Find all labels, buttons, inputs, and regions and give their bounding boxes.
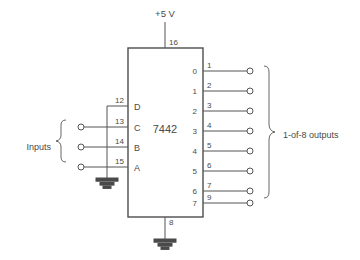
output-terminal-4[interactable] xyxy=(247,128,253,134)
output-index-7: 7 xyxy=(193,199,198,208)
input-ground-bar-1 xyxy=(96,178,118,181)
input-pin-number-13: 13 xyxy=(115,117,124,126)
input-port-letter-A: A xyxy=(134,163,140,173)
input-port-letter-B: B xyxy=(134,143,140,153)
input-pin-number-12: 12 xyxy=(115,96,124,105)
output-pin-number-4: 4 xyxy=(207,121,212,130)
input-terminal-13[interactable] xyxy=(78,124,84,130)
output-index-0: 0 xyxy=(193,67,198,76)
output-terminal-1[interactable] xyxy=(247,68,253,74)
input-section: 12 D 13 C 14 B 15 A xyxy=(26,96,141,188)
output-pin-number-1: 1 xyxy=(207,61,212,70)
output-section: 0 1 1 2 2 3 3 4 xyxy=(193,61,339,208)
input-terminal-15[interactable] xyxy=(78,164,84,170)
power-pin-number: 16 xyxy=(169,38,178,47)
input-pin-number-14: 14 xyxy=(115,137,124,146)
output-pin-number-6: 6 xyxy=(207,161,212,170)
output-line-0-group: 0 1 xyxy=(193,61,253,76)
output-terminal-6[interactable] xyxy=(247,168,253,174)
diagram-canvas: +5 V 16 7442 12 D 13 C xyxy=(0,0,360,260)
input-pin-12-group: 12 D xyxy=(107,96,141,112)
output-pin-number-3: 3 xyxy=(207,101,212,110)
output-terminal-5[interactable] xyxy=(247,148,253,154)
output-line-5-group: 5 6 xyxy=(193,161,253,176)
output-index-2: 2 xyxy=(193,107,198,116)
output-terminal-7[interactable] xyxy=(247,188,253,194)
input-pin-13-group: 13 C xyxy=(78,117,141,133)
power-supply-group: +5 V 16 xyxy=(155,8,178,48)
output-pin-number-7: 7 xyxy=(207,181,212,190)
input-port-letter-C: C xyxy=(134,123,141,133)
output-index-5: 5 xyxy=(193,167,198,176)
output-line-6-group: 6 7 xyxy=(193,181,253,196)
output-index-3: 3 xyxy=(193,127,198,136)
output-index-6: 6 xyxy=(193,187,198,196)
circuit-schematic: +5 V 16 7442 12 D 13 C xyxy=(0,0,360,260)
input-pin-number-15: 15 xyxy=(115,157,124,166)
chip-part-number: 7442 xyxy=(153,123,177,135)
output-index-1: 1 xyxy=(193,87,198,96)
chip-ground-symbol xyxy=(154,239,176,249)
output-line-4-group: 4 5 xyxy=(193,141,253,156)
input-terminal-14[interactable] xyxy=(78,144,84,150)
output-line-7-group: 7 9 xyxy=(193,193,253,208)
output-line-3-group: 3 4 xyxy=(193,121,253,136)
inputs-brace xyxy=(56,120,66,162)
output-index-4: 4 xyxy=(193,147,198,156)
output-pin-number-5: 5 xyxy=(207,141,212,150)
ground-pin-number: 8 xyxy=(169,218,174,227)
input-pin-14-group: 14 B xyxy=(78,137,140,153)
input-port-letter-D: D xyxy=(134,102,141,112)
output-terminal-3[interactable] xyxy=(247,108,253,114)
chip-ground-bar-1 xyxy=(154,239,176,242)
output-pin-number-9: 9 xyxy=(207,193,212,202)
chip-ground-group: 8 xyxy=(154,217,176,249)
output-terminal-9[interactable] xyxy=(247,200,253,206)
output-terminal-2[interactable] xyxy=(247,88,253,94)
input-ground-bar-2 xyxy=(100,183,114,186)
outputs-brace xyxy=(264,66,275,198)
outputs-group-label: 1-of-8 outputs xyxy=(283,130,339,140)
output-pin-number-2: 2 xyxy=(207,81,212,90)
input-ground-symbol xyxy=(96,178,118,188)
input-ground-bar-3 xyxy=(103,186,111,188)
chip-ground-bar-2 xyxy=(158,244,172,247)
power-supply-label: +5 V xyxy=(155,8,175,19)
inputs-group-label: Inputs xyxy=(26,142,51,152)
chip-ground-bar-3 xyxy=(161,247,169,249)
output-line-1-group: 1 2 xyxy=(193,81,253,96)
output-line-2-group: 2 3 xyxy=(193,101,253,116)
input-pin-15-group: 15 A xyxy=(78,157,140,173)
